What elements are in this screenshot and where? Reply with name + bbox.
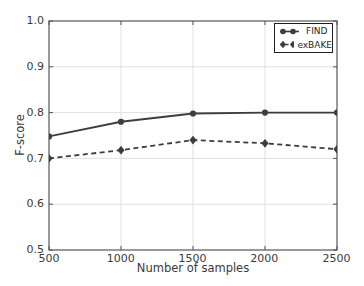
x-tick-label: 500	[27, 252, 71, 265]
solid-line-circle-marker-icon	[278, 26, 303, 37]
dashed-line-diamond-marker-icon	[278, 39, 294, 50]
y-tick-label: 0.9	[12, 60, 44, 73]
data-point-exbake	[261, 139, 268, 148]
data-point-exbake	[117, 146, 124, 155]
fscore-line-chart: 1.0 0.9 0.8 0.7 0.6 0.5 500 1000 1500 20…	[0, 0, 364, 286]
data-point-exbake	[333, 145, 340, 154]
legend-label-exbake: exBAKE	[297, 40, 332, 50]
legend-entry-exbake: exBAKE	[278, 38, 332, 51]
legend-label-find: FIND	[306, 26, 328, 36]
legend-entry-find: FIND	[278, 25, 332, 38]
y-axis-label: F-score	[13, 85, 29, 185]
data-point-find	[46, 133, 52, 139]
data-point-find	[262, 110, 268, 116]
data-point-find	[334, 110, 340, 116]
y-tick-label: 1.0	[12, 14, 44, 27]
legend: FIND exBAKE	[274, 23, 333, 53]
data-point-find	[190, 110, 196, 116]
x-axis-label: Number of samples	[103, 261, 283, 275]
data-point-exbake	[189, 136, 196, 145]
y-tick-label: 0.6	[12, 197, 44, 210]
data-point-exbake	[45, 154, 52, 163]
x-tick-label: 2500	[315, 252, 359, 265]
data-point-find	[118, 119, 124, 125]
